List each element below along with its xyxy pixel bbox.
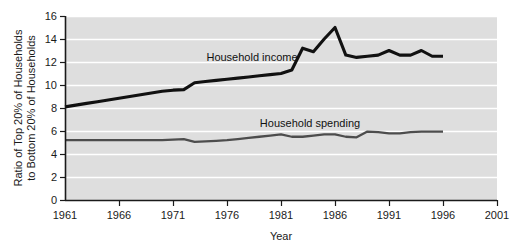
y-tick-label-12: 12 xyxy=(45,56,57,68)
chart-canvas: 0246810121416 19611966197119761981198619… xyxy=(0,0,519,247)
x-axis-title: Year xyxy=(270,230,293,242)
x-tick-label-1981: 1981 xyxy=(269,209,293,221)
x-tick-label-1976: 1976 xyxy=(215,209,239,221)
x-tick-label-1991: 1991 xyxy=(377,209,401,221)
y-tick-label-16: 16 xyxy=(45,10,57,22)
x-tick-label-1961: 1961 xyxy=(53,209,77,221)
series-label-household-income: Household income xyxy=(206,51,297,63)
y-axis-ticks: 0246810121416 xyxy=(45,10,65,206)
chart-figure: 0246810121416 19611966197119761981198619… xyxy=(0,0,519,247)
x-tick-label-2001: 2001 xyxy=(485,209,509,221)
y-tick-label-6: 6 xyxy=(51,125,57,137)
y-axis-title: Ratio of Top 20% of Households to Bottom… xyxy=(12,29,37,186)
y-tick-label-14: 14 xyxy=(45,33,57,45)
y-tick-label-2: 2 xyxy=(51,171,57,183)
y-tick-label-4: 4 xyxy=(51,148,57,160)
y-tick-label-10: 10 xyxy=(45,79,57,91)
y-tick-label-0: 0 xyxy=(51,194,57,206)
x-tick-label-1966: 1966 xyxy=(107,209,131,221)
x-axis-ticks: 196119661971197619811986199119962001 xyxy=(53,200,509,221)
y-axis-title-line2: to Bottom 20% of Households xyxy=(25,35,37,181)
y-tick-label-8: 8 xyxy=(51,102,57,114)
y-axis-title-line1: Ratio of Top 20% of Households xyxy=(12,29,24,186)
x-tick-label-1996: 1996 xyxy=(431,209,455,221)
x-tick-label-1971: 1971 xyxy=(161,209,185,221)
series-label-household-spending: Household spending xyxy=(260,117,360,129)
x-tick-label-1986: 1986 xyxy=(323,209,347,221)
